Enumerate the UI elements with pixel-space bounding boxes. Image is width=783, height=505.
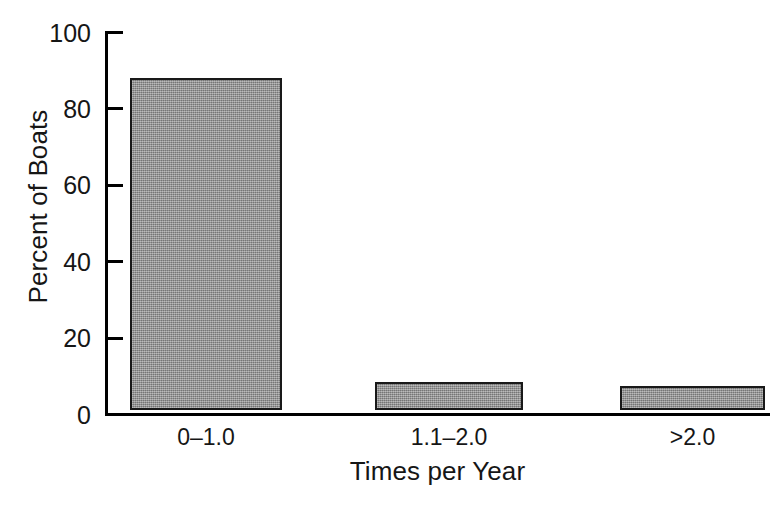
y-tick-mark — [108, 184, 123, 187]
y-tick-label: 40 — [63, 249, 91, 274]
x-tick-label-2: >2.0 — [620, 426, 765, 449]
y-axis-line — [105, 31, 108, 414]
y-tick-mark — [108, 413, 123, 416]
x-axis-line — [105, 413, 770, 416]
y-tick-mark — [108, 337, 123, 340]
y-tick-label: 100 — [49, 20, 91, 45]
y-axis-title: Percent of Boats — [14, 0, 62, 413]
y-tick-mark — [108, 31, 123, 34]
plot-area: 100 80 60 40 20 0 0–1.0 1.1–2.0 — [105, 31, 783, 413]
y-tick-label: 20 — [63, 326, 91, 351]
x-axis-title: Times per Year — [105, 456, 770, 487]
y-tick-label: 0 — [77, 402, 91, 427]
x-tick-label-0: 0–1.0 — [130, 426, 282, 449]
bar-chart-figure: Percent of Boats 100 80 60 40 20 — [0, 0, 783, 505]
y-tick-mark — [108, 260, 123, 263]
y-tick-label: 60 — [63, 173, 91, 198]
bar-2 — [620, 386, 765, 410]
bar-0 — [130, 78, 282, 410]
y-tick-mark — [108, 107, 123, 110]
x-tick-label-1: 1.1–2.0 — [375, 426, 523, 449]
bar-1 — [375, 382, 523, 410]
y-tick-label: 80 — [63, 96, 91, 121]
